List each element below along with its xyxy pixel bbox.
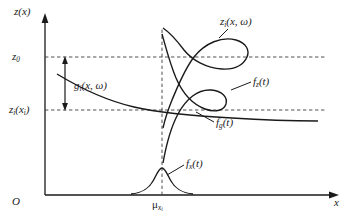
- pdf-fz-label-subscript: z: [256, 81, 259, 89]
- pdf-fg-label: fg(t): [216, 117, 233, 128]
- y-tick-label-z0: z0: [12, 51, 20, 62]
- leader-line-zi: [219, 29, 228, 38]
- y-axis-arrowhead: [42, 13, 49, 23]
- gap-arrow-group: [62, 56, 68, 111]
- pdf-fg-path: [162, 34, 226, 163]
- gap-arrow-label: gi(x, ω): [74, 80, 107, 91]
- y-tick-label-zxi: zi(xi): [9, 104, 30, 115]
- gap-arrow-label-subscript: i: [80, 85, 82, 93]
- pdf-fz-label: fz(t): [253, 76, 269, 87]
- response-curve-label: zi(x, ω): [220, 16, 252, 27]
- reference-lines-group: [45, 28, 326, 195]
- pdf-fg-label-subscript: g: [219, 122, 223, 130]
- pdf-fx-label: fx(t): [186, 158, 203, 169]
- leader-lines-group: [167, 29, 251, 175]
- origin-label: O: [12, 196, 20, 207]
- gap-arrow-head-down: [62, 103, 68, 111]
- y-tick-zxi-subscript: i: [13, 109, 15, 117]
- leader-line-fz: [231, 82, 251, 90]
- pdf-curve-fg: [162, 34, 226, 163]
- response-curve-label-subscript: i: [224, 21, 226, 29]
- x-tick-mu-subsubscript: i: [161, 206, 162, 212]
- figure-canvas: z(x) x O z0 zi(xi) μxi gi(x, ω) zi(x, ω)…: [0, 0, 348, 223]
- y-tick-zxi-arg-subscript: i: [24, 109, 26, 117]
- gap-arrow-head-up: [62, 56, 68, 64]
- x-tick-label-mu: μxi: [152, 199, 163, 210]
- y-axis-label: z(x): [14, 6, 31, 17]
- leader-line-fx: [167, 165, 184, 175]
- y-tick-z0-subscript: 0: [16, 56, 20, 64]
- x-tick-mu-subscript: xi: [158, 204, 163, 212]
- x-axis-label: x: [334, 197, 339, 208]
- figure-vector-layer: [0, 0, 348, 223]
- pdf-fx-label-subscript: x: [189, 163, 192, 171]
